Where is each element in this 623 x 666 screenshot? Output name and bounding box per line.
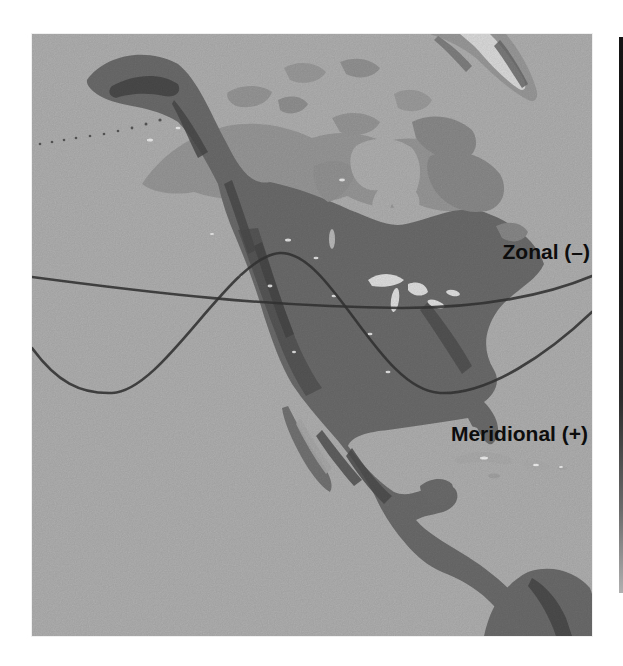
scan-grain-overlay bbox=[32, 34, 592, 636]
map-artwork bbox=[32, 34, 592, 636]
zonal-label: Zonal (–) bbox=[503, 240, 591, 264]
north-america-map: Zonal (–) Meridional (+) bbox=[32, 34, 592, 636]
adjacent-figure-edge bbox=[619, 37, 623, 593]
meridional-label: Meridional (+) bbox=[451, 422, 588, 446]
